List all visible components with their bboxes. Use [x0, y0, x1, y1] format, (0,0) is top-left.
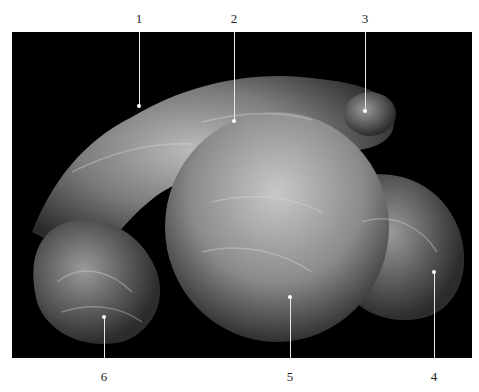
- leader-dot-5: [288, 295, 292, 299]
- leader-line-1: [139, 32, 140, 106]
- label-6: 6: [94, 370, 114, 384]
- leader-dot-1: [137, 104, 141, 108]
- specimen-shape: [12, 32, 472, 358]
- label-4: 4: [424, 370, 444, 384]
- label-2: 2: [224, 12, 244, 26]
- leader-line-3: [365, 32, 366, 111]
- leader-dot-6: [102, 315, 106, 319]
- leader-dot-3: [363, 109, 367, 113]
- leader-dot-2: [232, 119, 236, 123]
- label-1: 1: [129, 12, 149, 26]
- leader-line-6: [104, 317, 105, 358]
- specimen-photo: [12, 32, 472, 358]
- label-5: 5: [280, 370, 300, 384]
- label-3: 3: [355, 12, 375, 26]
- leader-line-5: [290, 297, 291, 358]
- leader-line-4: [434, 272, 435, 358]
- leader-line-2: [234, 32, 235, 121]
- leader-dot-4: [432, 270, 436, 274]
